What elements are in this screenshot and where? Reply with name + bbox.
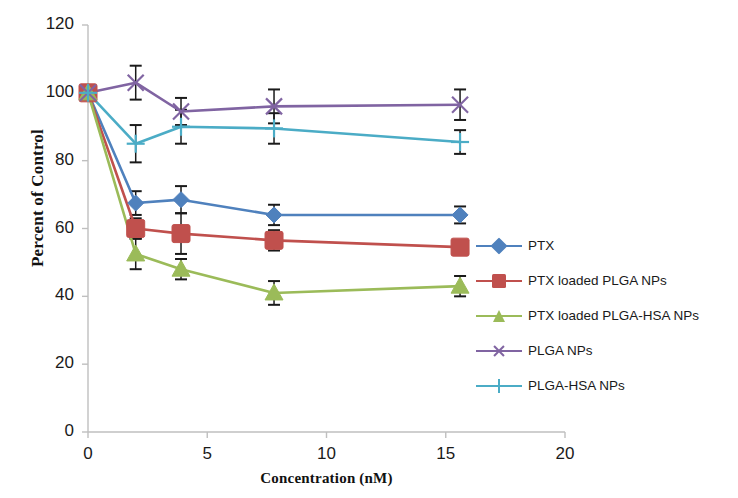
y-tick-label: 100 <box>28 82 74 102</box>
legend-label: PTX <box>528 238 554 253</box>
data-point-marker <box>266 207 282 223</box>
legend-label: PLGA-HSA NPs <box>528 378 625 393</box>
legend-item-ptx-loaded-plga-nps[interactable]: PTX loaded PLGA NPs <box>476 263 738 298</box>
y-tick-label: 0 <box>28 421 74 441</box>
data-point-marker <box>127 220 145 238</box>
legend-symbol <box>492 274 506 288</box>
x-tick-label: 20 <box>545 444 585 464</box>
legend-marker-triangle-icon <box>476 309 522 323</box>
data-point-marker <box>452 207 468 223</box>
x-tick-label: 10 <box>307 444 347 464</box>
legend-symbol <box>493 310 505 322</box>
legend-label: PLGA NPs <box>528 343 593 358</box>
chart-legend: PTXPTX loaded PLGA NPsPTX loaded PLGA-HS… <box>476 228 738 403</box>
legend-label: PTX loaded PLGA-HSA NPs <box>528 308 699 323</box>
chart-container: Percent of Control Concentration (nM) 02… <box>0 0 738 498</box>
legend-symbol <box>493 345 505 357</box>
data-point-marker <box>451 133 469 151</box>
legend-marker-plus-icon <box>476 379 522 393</box>
data-point-marker <box>265 231 283 249</box>
legend-symbol <box>493 380 505 392</box>
y-tick-label: 40 <box>28 285 74 305</box>
legend-symbol <box>491 237 508 254</box>
data-point-marker <box>451 238 469 256</box>
legend-marker-x-icon <box>476 344 522 358</box>
x-tick-label: 0 <box>68 444 108 464</box>
y-tick-label: 80 <box>28 150 74 170</box>
data-point-marker <box>265 119 283 137</box>
y-tick-label: 60 <box>28 218 74 238</box>
legend-item-plga-nps[interactable]: PLGA NPs <box>476 333 738 368</box>
y-tick-label: 120 <box>28 14 74 34</box>
legend-item-ptx[interactable]: PTX <box>476 228 738 263</box>
legend-item-plga-hsa-nps[interactable]: PLGA-HSA NPs <box>476 368 738 403</box>
data-point-marker <box>127 245 145 261</box>
data-point-marker <box>172 225 190 243</box>
data-point-marker <box>173 192 189 208</box>
x-tick-label: 15 <box>426 444 466 464</box>
x-tick-label: 5 <box>187 444 227 464</box>
data-point-marker <box>172 118 190 136</box>
legend-marker-diamond-icon <box>476 239 522 253</box>
legend-item-ptx-loaded-plga-hsa-nps[interactable]: PTX loaded PLGA-HSA NPs <box>476 298 738 333</box>
legend-marker-square-icon <box>476 274 522 288</box>
legend-label: PTX loaded PLGA NPs <box>528 273 667 288</box>
y-tick-label: 20 <box>28 353 74 373</box>
